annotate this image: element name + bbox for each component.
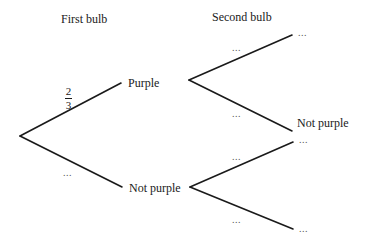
fraction-numerator: 2 [66,86,72,98]
outcome-not-purple-then-lower: ... [299,224,308,234]
branch-root-to-not-purple [20,136,122,187]
outcome-not-purple-then-upper: ... [299,135,308,145]
outcome-purple-then-not-purple: Not purple [297,117,349,129]
outcome-purple: Purple [128,77,159,89]
branch-not-purple-to-upper [190,142,293,187]
probability-not-purple: ... [63,168,72,178]
probability-purple-fraction: 2 3 [65,86,72,111]
outcome-not-purple: Not purple [129,182,181,194]
branch-not-purple-to-lower [190,187,293,229]
header-second-bulb: Second bulb [212,11,272,23]
probability-purple-then-upper: ... [232,43,241,53]
fraction-denominator: 3 [66,99,72,111]
header-first-bulb: First bulb [61,13,107,25]
probability-not-purple-then-lower: ... [232,215,241,225]
outcome-purple-then-upper: ... [298,28,307,38]
probability-tree-diagram: First bulb Second bulb 2 3 ... Purple No… [0,0,371,246]
probability-purple-then-not-purple: ... [232,109,241,119]
probability-not-purple-then-upper: ... [232,152,241,162]
branch-purple-to-not-purple [189,80,292,131]
